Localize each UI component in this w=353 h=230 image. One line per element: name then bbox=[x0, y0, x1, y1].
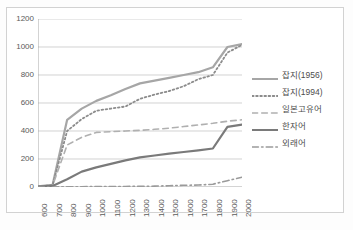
x-axis-tick-label: 800 bbox=[70, 204, 78, 217]
x-axis-tick-label: 1900 bbox=[231, 199, 239, 217]
legend-item-label: 잡지(1956) bbox=[282, 70, 323, 80]
legend-item-label: 외래어 bbox=[282, 138, 306, 148]
y-axis-tick-label: 200 bbox=[21, 155, 34, 163]
y-axis-tick-label: 800 bbox=[21, 71, 34, 79]
legend-item-label: 일본고유어 bbox=[282, 104, 322, 114]
y-axis-tick-label: 0 bbox=[30, 183, 34, 191]
y-axis: 020040060080010001200 bbox=[0, 19, 34, 187]
legend-key-icon bbox=[252, 138, 278, 148]
chart-container: 020040060080010001200 600700800900100011… bbox=[0, 0, 353, 230]
x-axis-tick-label: 1800 bbox=[216, 199, 224, 217]
series-line bbox=[38, 45, 242, 186]
x-axis-tick-label: 1400 bbox=[158, 199, 166, 217]
x-axis-tick-label: 900 bbox=[85, 204, 93, 217]
x-axis-tick-label: 1000 bbox=[99, 199, 107, 217]
x-axis-tick-label: 1600 bbox=[187, 199, 195, 217]
x-axis-tick-label: 1200 bbox=[129, 199, 137, 217]
legend-key-icon bbox=[252, 104, 278, 114]
plot-area bbox=[38, 19, 242, 187]
legend-item-label: 한자어 bbox=[282, 121, 306, 131]
legend-item[interactable]: 일본고유어 bbox=[252, 100, 340, 117]
x-axis: 6007008009001000110012001300140015001600… bbox=[38, 189, 242, 219]
x-axis-tick-label: 700 bbox=[56, 204, 64, 217]
legend-key-icon bbox=[252, 70, 278, 80]
series-line bbox=[38, 125, 242, 187]
x-axis-tick-label: 600 bbox=[41, 204, 49, 217]
legend-item[interactable]: 잡지(1956) bbox=[252, 66, 340, 83]
plot-svg bbox=[38, 19, 242, 187]
x-axis-tick-label: 1300 bbox=[143, 199, 151, 217]
legend-key-icon bbox=[252, 87, 278, 97]
legend-item[interactable]: 잡지(1994) bbox=[252, 83, 340, 100]
legend-item-label: 잡지(1994) bbox=[282, 87, 323, 97]
legend-item[interactable]: 한자어 bbox=[252, 117, 340, 134]
x-axis-tick-label: 1500 bbox=[172, 199, 180, 217]
x-axis-tick-label: 1700 bbox=[201, 199, 209, 217]
chart-legend: 잡지(1956)잡지(1994)일본고유어한자어외래어 bbox=[252, 66, 340, 151]
y-axis-tick-label: 600 bbox=[21, 99, 34, 107]
y-axis-tick-label: 1000 bbox=[16, 43, 34, 51]
y-axis-tick-label: 400 bbox=[21, 127, 34, 135]
legend-item[interactable]: 외래어 bbox=[252, 134, 340, 151]
x-axis-tick-label: 2000 bbox=[245, 199, 253, 217]
x-axis-tick-label: 1100 bbox=[114, 200, 122, 217]
y-axis-tick-label: 1200 bbox=[16, 15, 34, 23]
series-line bbox=[38, 44, 242, 186]
legend-key-icon bbox=[252, 121, 278, 131]
